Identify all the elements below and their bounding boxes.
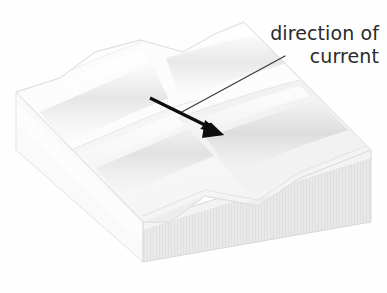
label-line-1: direction of — [270, 22, 379, 45]
label-line-2: current — [270, 45, 379, 68]
figure-container: direction of current — [0, 0, 387, 293]
direction-of-current-label: direction of current — [270, 22, 379, 68]
